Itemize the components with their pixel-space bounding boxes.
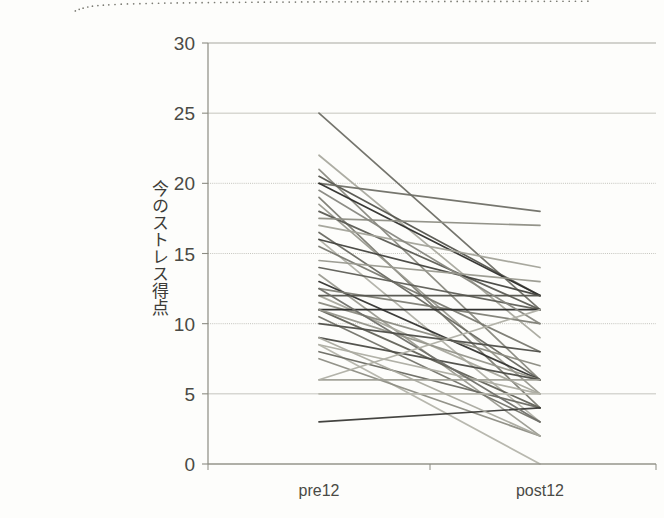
series-line <box>319 345 540 464</box>
y-axis-tick-label: 30 <box>174 33 195 54</box>
y-axis-tick-label: 10 <box>174 314 195 335</box>
x-axis-category-label: pre12 <box>299 482 340 499</box>
y-axis-tick-label: 5 <box>184 384 195 405</box>
series-line <box>319 324 540 352</box>
series-line <box>319 289 540 324</box>
series-lines <box>319 113 540 464</box>
y-axis-tick-label: 20 <box>174 173 195 194</box>
series-line <box>319 218 540 225</box>
y-axis-tick-label: 0 <box>184 454 195 475</box>
gridlines <box>208 43 656 464</box>
series-line <box>319 261 540 282</box>
series-line <box>319 113 540 309</box>
series-line <box>319 289 540 422</box>
series-line <box>319 408 540 422</box>
slope-chart: 051015202530 pre12post12 <box>0 0 664 518</box>
y-axis-tick-label: 15 <box>174 244 195 265</box>
y-tick-marks <box>202 43 208 464</box>
chart-page: 今のストレス得点 051015202530 pre12post12 <box>0 0 664 518</box>
series-line <box>319 359 540 436</box>
x-tick-labels: pre12post12 <box>299 482 565 499</box>
series-line <box>319 183 540 211</box>
y-axis-tick-label: 25 <box>174 103 195 124</box>
y-tick-labels: 051015202530 <box>174 33 195 475</box>
x-axis-category-label: post12 <box>516 482 564 499</box>
